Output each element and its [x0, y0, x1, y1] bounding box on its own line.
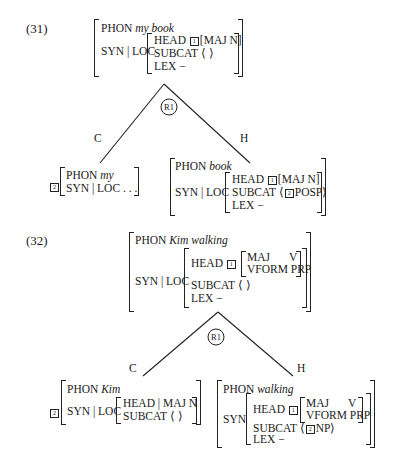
synloc-value: SYN | LOC . . . [66, 183, 137, 195]
lex-label: LEX [253, 433, 275, 445]
head-value: [MAJ N] [278, 173, 320, 185]
lex-value: − [257, 199, 264, 211]
branch-32-right [218, 312, 293, 376]
maj-label: MAJ [247, 251, 270, 263]
lex-value: − [179, 60, 186, 72]
example-number-32: (32) [26, 234, 48, 247]
phon-label: PHON [66, 169, 97, 181]
vform-value: PRP [291, 263, 311, 275]
lex-value: − [216, 292, 223, 304]
lex-label: LEX [191, 292, 213, 304]
subcat-label: SUBCAT [123, 410, 167, 422]
synloc-label: SYN | LOC [67, 406, 121, 418]
maj-label: MAJ [306, 397, 329, 409]
phon-value: Kim [101, 383, 120, 395]
branch-label-c-31: C [94, 133, 102, 145]
subcat-value: ⟨ ⟩ [201, 47, 214, 59]
phon-value: Kim walking [169, 234, 227, 246]
subcat-value: ⟨ ⟩ [170, 410, 183, 422]
phon-label: PHON [135, 234, 166, 246]
phon-label: PHON [175, 160, 206, 172]
tag-2: 2 [285, 189, 294, 198]
maj-value: V [348, 397, 356, 409]
subcat-label: SUBCAT [154, 47, 198, 59]
vform-value: PRP [350, 409, 370, 421]
subcat-label: SUBCAT [232, 186, 276, 198]
lex-label: LEX [232, 199, 254, 211]
tag-2: 2 [306, 425, 315, 434]
example-number-31: (31) [26, 22, 48, 35]
head-label: HEAD [154, 34, 186, 46]
subcat-value: NP⟩ [316, 422, 336, 434]
branch-label-c-32: C [129, 363, 137, 375]
head-label: HEAD [253, 403, 285, 415]
rule-label-32: R1 [211, 333, 221, 342]
branch-31-right [164, 84, 250, 163]
subcat-open: ⟨ [279, 186, 284, 198]
phon-value: my [100, 169, 113, 181]
head-value: [MAJ N] [200, 34, 242, 46]
lex-value: − [278, 433, 285, 445]
synloc-label: SYN | LOC [175, 187, 229, 199]
head-label: HEAD [232, 173, 264, 185]
phon-value: book [209, 160, 231, 172]
tag-1: 1 [190, 37, 199, 46]
tag-1: 1 [289, 406, 298, 415]
lex-label: LEX [154, 60, 176, 72]
branch-31-left [100, 84, 164, 163]
subcat-value: POSP⟩ [295, 186, 328, 198]
branch-label-h-32: H [297, 363, 305, 375]
phon-label: PHON [67, 383, 98, 395]
maj-value: V [289, 251, 297, 263]
tag-1: 1 [268, 176, 277, 185]
phon-value: walking [257, 383, 293, 395]
phon-label: PHON [101, 22, 132, 34]
rule-label-31: R1 [164, 103, 174, 112]
subcat-value: ⟨ ⟩ [238, 279, 251, 291]
synloc-label: SYN | LOC [135, 276, 189, 288]
branch-32-left [143, 312, 218, 376]
subcat-open: ⟨ [300, 422, 305, 434]
vform-label: VFORM [247, 263, 288, 275]
tag-2: 2 [50, 183, 59, 192]
phon-value: my book [135, 22, 174, 34]
subcat-label: SUBCAT [191, 279, 235, 291]
syn-label: SYN [223, 414, 246, 426]
branch-label-h-31: H [240, 133, 248, 145]
tag-2: 2 [50, 409, 59, 418]
vform-label: VFORM [306, 409, 347, 421]
tag-1: 1 [227, 260, 236, 269]
head-maj-value: HEAD | MAJ N [123, 398, 197, 410]
head-label: HEAD [191, 257, 223, 269]
